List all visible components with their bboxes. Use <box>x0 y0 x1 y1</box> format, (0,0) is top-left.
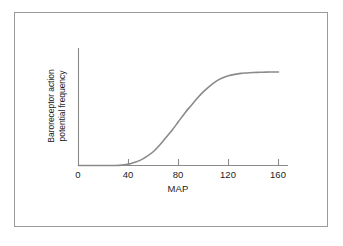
y-axis-label-line1: Baroreceptor action <box>46 44 57 168</box>
x-tick-label-0: 0 <box>66 169 90 180</box>
x-tick-label-40: 40 <box>116 169 140 180</box>
x-tick-label-160: 160 <box>266 169 290 180</box>
x-tick-label-80: 80 <box>166 169 190 180</box>
x-tick-label-120: 120 <box>216 169 240 180</box>
y-axis-label: Baroreceptor action potential frequency <box>46 44 80 168</box>
sigmoid-curve <box>79 72 279 166</box>
x-axis-label: MAP <box>150 183 206 194</box>
y-axis-label-line2: potential frequency <box>57 44 68 168</box>
x-axis-ticks <box>129 159 279 166</box>
